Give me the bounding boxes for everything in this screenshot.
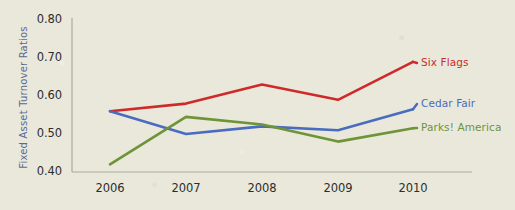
line-chart-plot (0, 0, 515, 210)
axis-spines (72, 18, 472, 172)
series-lines-group (110, 62, 413, 165)
chart-container: Fixed Asset Turnover Ratios 0.40 0.50 0.… (0, 0, 515, 210)
legend-marker-group (413, 62, 417, 129)
series-line-cedar-fair (110, 109, 413, 134)
legend-leader-line (413, 62, 417, 63)
legend-leader-line (413, 104, 417, 109)
series-line-six-flags (110, 62, 413, 111)
